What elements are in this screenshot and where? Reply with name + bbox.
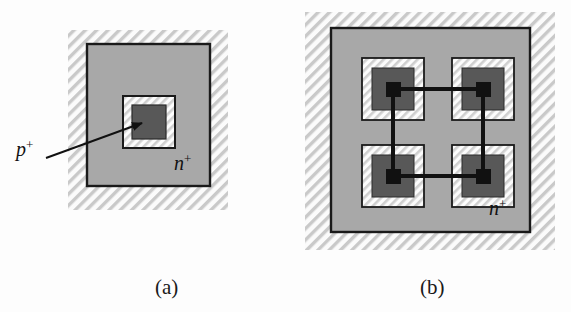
contact-top-left — [386, 82, 401, 97]
contact-top-right — [476, 82, 491, 97]
contact-bottom-right — [476, 169, 491, 184]
contact-bottom-left — [386, 169, 401, 184]
device-layout-figure: p+ n+ (a) — [0, 0, 571, 312]
panel-a-caption: (a) — [155, 275, 178, 299]
panel-b-caption: (b) — [420, 275, 445, 299]
figure-canvas: p+ n+ (a) — [0, 0, 571, 312]
panel-a-cell-inner-pplus — [132, 105, 166, 139]
